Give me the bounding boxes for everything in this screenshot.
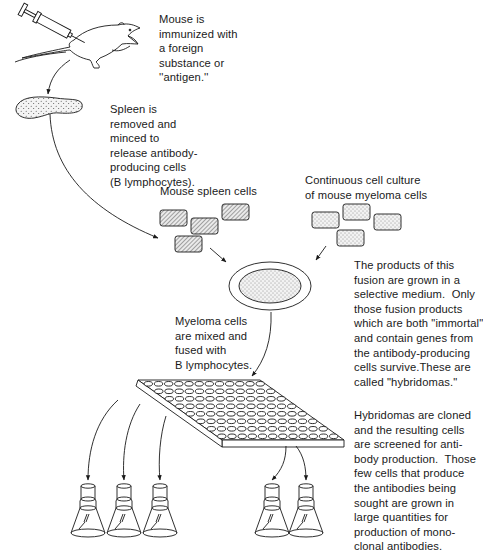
well: [309, 427, 317, 432]
well: [216, 389, 224, 394]
well: [185, 389, 193, 394]
well: [258, 434, 266, 439]
text-line: Hybridomas are cloned: [354, 408, 476, 423]
text-line: removed and: [110, 117, 198, 132]
well: [175, 397, 183, 402]
step-fusion-text: Myeloma cellsare mixed andfused withB ly…: [175, 314, 252, 372]
arrow-plate-to-flask: [88, 400, 118, 480]
well: [267, 397, 275, 402]
culture-flask-icon: [289, 484, 323, 537]
step-immunize-text: Mouse isimmunized witha foreignsubstance…: [159, 12, 238, 85]
well: [227, 404, 235, 409]
well: [278, 427, 286, 432]
well: [196, 397, 204, 402]
well: [238, 427, 246, 432]
well: [155, 389, 163, 394]
well: [205, 382, 213, 387]
text-line: the antibody-producing: [354, 346, 483, 361]
step-spleen-text: Spleen isremoved andminced torelease ant…: [110, 102, 198, 190]
well: [298, 419, 306, 424]
well: [319, 427, 327, 432]
well: [236, 382, 244, 387]
text-line: Continuous cell culture: [305, 173, 427, 188]
myeloma-cells-group: [312, 204, 401, 246]
arrow-plate-to-flask: [272, 446, 286, 480]
well: [206, 404, 214, 409]
myeloma-cells-label: Continuous cell cultureof mouse myeloma …: [305, 173, 427, 202]
text-line: body production. Those: [354, 452, 476, 467]
well: [226, 382, 234, 387]
well: [226, 389, 234, 394]
well: [257, 397, 265, 402]
well: [267, 404, 275, 409]
well: [309, 434, 317, 439]
well: [185, 382, 193, 387]
text-line: release antibody-: [110, 146, 198, 161]
spleen-cell-icon: [191, 218, 218, 234]
well: [288, 404, 296, 409]
well: [165, 397, 173, 402]
well: [227, 419, 235, 424]
well: [176, 404, 184, 409]
well: [217, 412, 225, 417]
step-selection-text: The products of thisfusion are grown in …: [354, 258, 483, 389]
well: [196, 412, 204, 417]
well: [267, 389, 275, 394]
text-line: minced to: [110, 131, 198, 146]
well: [277, 404, 285, 409]
well: [207, 427, 215, 432]
text-line: a foreign: [159, 41, 238, 56]
well: [319, 434, 327, 439]
text-line: production of mono-: [354, 525, 476, 540]
culture-dish-icon: [229, 262, 311, 310]
text-line: few cells that produce: [354, 466, 476, 481]
spleen-cells-label: Mouse spleen cells: [160, 184, 257, 199]
well: [165, 389, 173, 394]
well: [236, 389, 244, 394]
well: [268, 412, 276, 417]
text-line: the antibodies being: [354, 481, 476, 496]
well: [237, 419, 245, 424]
well: [206, 397, 214, 402]
well: [279, 434, 287, 439]
well: [257, 412, 265, 417]
text-line: Myeloma cells: [175, 314, 252, 329]
text-line: Mouse is: [159, 12, 238, 27]
text-line: sought are grown in: [354, 496, 476, 511]
text-line: immunized with: [159, 27, 238, 42]
spleen-cells-group: [160, 204, 249, 252]
mouse-icon: [15, 23, 140, 68]
text-line: and the resulting cells: [354, 423, 476, 438]
well: [195, 382, 203, 387]
well: [268, 427, 276, 432]
well: [226, 397, 234, 402]
well: [236, 397, 244, 402]
well: [154, 382, 162, 387]
text-line: ''antigen.'': [159, 70, 238, 85]
text-line: The products of this: [354, 258, 483, 273]
well: [218, 434, 226, 439]
arrow-spleen-cells-to-dish: [210, 248, 226, 262]
text-line: of mouse myeloma cells: [305, 188, 427, 203]
text-line: are mixed and: [175, 329, 252, 344]
culture-flask-icon: [255, 484, 289, 537]
well: [278, 412, 286, 417]
text-line: clonal antibodies.: [354, 539, 476, 554]
well: [257, 404, 265, 409]
well: [217, 419, 225, 424]
text-line: cells survive.These are: [354, 360, 483, 375]
spleen-cell-icon: [175, 236, 202, 252]
well: [256, 389, 264, 394]
myeloma-cell-icon: [312, 212, 339, 228]
well: [207, 412, 215, 417]
well: [195, 389, 203, 394]
well: [248, 419, 256, 424]
arrow-plate-to-flask: [159, 416, 166, 480]
arrow-dish-to-plate: [252, 312, 271, 376]
well: [288, 412, 296, 417]
text-line: Mouse spleen cells: [160, 184, 257, 199]
well: [237, 404, 245, 409]
culture-flask-icon: [143, 484, 177, 537]
well: [269, 434, 277, 439]
well: [289, 434, 297, 439]
